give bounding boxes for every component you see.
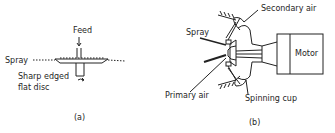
atomizer-diagram: [0, 0, 335, 133]
label-spinning-cup: Spinning cup: [245, 94, 297, 103]
label-motor: Motor: [295, 49, 318, 58]
label-spray-a: Spray: [5, 56, 28, 65]
label-primary-air: Primary air: [165, 91, 209, 100]
label-disc-line2: flat disc: [18, 83, 50, 92]
caption-b: (b): [249, 118, 260, 127]
caption-a: (a): [74, 113, 85, 122]
label-spray-b: Spray: [186, 28, 209, 37]
label-disc-line1: Sharp edged: [18, 72, 69, 81]
label-feed: Feed: [73, 26, 92, 35]
label-secondary-air: Secondary air: [261, 4, 316, 13]
